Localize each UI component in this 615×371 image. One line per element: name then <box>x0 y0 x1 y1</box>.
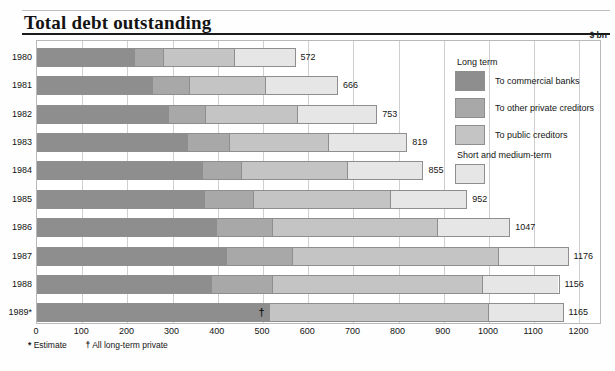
bar-segment-3 <box>437 219 509 236</box>
bar-1989[interactable] <box>37 303 564 322</box>
legend-heading-short: Short and medium-term <box>457 150 605 160</box>
bar-segment-2 <box>229 134 328 151</box>
legend-item-short-term <box>455 162 605 186</box>
legend-item-public-creditors: To public creditors <box>455 123 605 147</box>
bar-segment-1 <box>211 276 272 293</box>
bar-1986[interactable] <box>37 218 510 237</box>
bar-segment-0 <box>38 106 168 123</box>
legend-swatch-public-creditors <box>455 125 485 145</box>
x-tick-label: 100 <box>61 326 101 336</box>
x-tick-label: 600 <box>287 326 327 336</box>
bar-segment-2 <box>253 191 390 208</box>
bar-segment-0 <box>38 162 202 179</box>
bar-segment-0 <box>38 77 152 94</box>
legend-label-other-private-creditors: To other private creditors <box>495 103 594 113</box>
bar-1988[interactable] <box>37 275 560 294</box>
legend-label-commercial-banks: To commercial banks <box>495 76 580 86</box>
bar-value-label: 1156 <box>565 279 584 289</box>
bar-segment-3 <box>498 248 568 265</box>
bar-value-label: 1047 <box>515 222 535 232</box>
y-axis-label: 1983 <box>0 137 32 147</box>
bar-segment-2 <box>272 276 481 293</box>
y-axis-label: 1984 <box>0 165 32 175</box>
bar-segment-3 <box>488 304 562 321</box>
bar-segment-3 <box>482 276 559 293</box>
y-axis-label: 1985 <box>0 194 32 204</box>
legend-heading-long: Long term <box>457 57 605 67</box>
bar-segment-1 <box>216 219 272 236</box>
bar-segment-0 <box>38 219 216 236</box>
bar-1980[interactable] <box>37 48 296 67</box>
x-tick-label: 900 <box>423 326 463 336</box>
x-tick-label: 700 <box>332 326 372 336</box>
y-axis-label: 1986 <box>0 222 32 232</box>
x-tick-label: 200 <box>106 326 146 336</box>
bar-segment-0 <box>38 134 187 151</box>
y-axis-label: 1987 <box>0 251 32 261</box>
bar-segment-1 <box>187 134 228 151</box>
unit-label: $ bn <box>590 30 607 40</box>
bar-segment-2 <box>292 248 498 265</box>
x-tick-label: 400 <box>197 326 237 336</box>
bar-value-label: 753 <box>382 109 397 119</box>
dagger-symbol: † <box>86 340 91 350</box>
bar-value-label: 952 <box>472 194 487 204</box>
dagger-marker-icon: † <box>258 307 264 318</box>
legend-swatch-other-private-creditors <box>455 98 485 118</box>
bar-segment-0 <box>38 304 269 321</box>
estimate-text: Estimate <box>34 340 67 350</box>
y-axis-label: 1980 <box>0 52 32 62</box>
bar-segment-0 <box>38 191 204 208</box>
bar-segment-2 <box>189 77 265 94</box>
bar-segment-0 <box>38 248 226 265</box>
bar-segment-2 <box>241 162 347 179</box>
bar-segment-1 <box>152 77 189 94</box>
page-title: Total debt outstanding <box>24 12 211 34</box>
legend-item-commercial-banks: To commercial banks <box>455 69 605 93</box>
bar-segment-3 <box>328 134 407 151</box>
bar-segment-0 <box>38 49 134 66</box>
x-tick-label: 300 <box>152 326 192 336</box>
bar-1985[interactable] <box>37 190 467 209</box>
y-axis-label: 1981 <box>0 80 32 90</box>
bar-segment-1 <box>226 248 292 265</box>
bar-segment-1 <box>204 191 253 208</box>
bar-segment-3 <box>234 49 294 66</box>
bar-segment-1 <box>168 106 205 123</box>
bar-value-label: 1176 <box>574 251 593 261</box>
x-tick-label: 0 <box>16 326 56 336</box>
bar-1984[interactable] <box>37 161 423 180</box>
bar-segment-1 <box>202 162 242 179</box>
bar-segment-1 <box>134 49 163 66</box>
title-underline <box>22 33 610 35</box>
bar-value-label: 819 <box>412 137 427 147</box>
chart-page: Total debt outstanding $ bn 010020030040… <box>0 0 615 371</box>
bar-segment-3 <box>297 106 376 123</box>
bar-segment-3 <box>265 77 337 94</box>
top-rule <box>22 10 610 11</box>
x-tick-label: 1100 <box>513 326 553 336</box>
legend-item-other-private-creditors: To other private creditors <box>455 96 605 120</box>
legend-swatch-commercial-banks <box>455 71 485 91</box>
bar-value-label: 666 <box>343 80 358 90</box>
bar-segment-2 <box>163 49 235 66</box>
bar-segment-3 <box>347 162 422 179</box>
bar-1981[interactable] <box>37 76 338 95</box>
x-tick-label: 1200 <box>558 326 598 336</box>
y-axis-label: 1989* <box>0 307 32 317</box>
y-axis-label: 1982 <box>0 109 32 119</box>
x-tick-label: 1000 <box>468 326 508 336</box>
bar-1983[interactable] <box>37 133 407 152</box>
legend-label-public-creditors: To public creditors <box>495 130 568 140</box>
bar-value-label: 1165 <box>569 307 588 317</box>
bar-segment-3 <box>390 191 466 208</box>
estimate-symbol: * <box>28 340 31 350</box>
bar-segment-2 <box>205 106 297 123</box>
bar-segment-2 <box>269 304 489 321</box>
legend-swatch-short-term <box>455 164 485 184</box>
legend: Long term To commercial banks To other p… <box>455 57 605 189</box>
dagger-text: All long-term private <box>92 340 168 350</box>
bar-1982[interactable] <box>37 105 377 124</box>
x-tick-label: 800 <box>378 326 418 336</box>
bar-1987[interactable] <box>37 247 569 266</box>
